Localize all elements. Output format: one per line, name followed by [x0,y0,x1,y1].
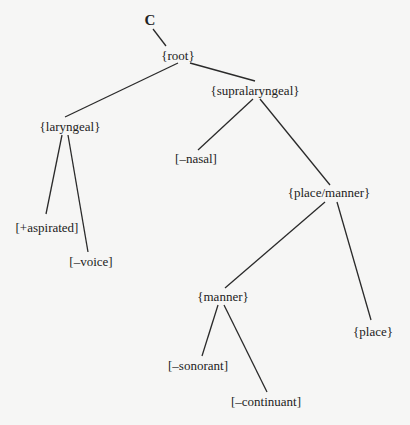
node-laryngeal: {laryngeal} [40,120,101,134]
edge-supralaryngeal-nasal [198,99,253,150]
node-manner: {manner} [197,290,248,304]
edge-manner-sonorant [202,305,218,356]
node-place-manner: {place/manner} [288,186,371,200]
node-root: {root} [161,49,194,63]
edge-c-root [153,29,166,46]
node-nasal: [–nasal] [175,152,217,166]
node-c: C [145,13,156,27]
node-continuant: [–continuant] [231,395,301,409]
node-aspirated: [+aspirated] [16,221,79,235]
edge-root-supralaryngeal [190,63,255,81]
edge-place_manner-place [337,202,371,320]
edge-place_manner-manner [225,202,325,288]
node-sonorant: [–sonorant] [168,359,228,373]
node-voice: [–voice] [69,255,112,269]
edge-root-laryngeal [65,63,178,117]
node-supralaryngeal: {supralaryngeal} [210,84,299,98]
edge-manner-continuant [224,305,267,392]
node-place: {place} [353,325,393,339]
edge-laryngeal-aspirated [46,135,62,214]
edge-supralaryngeal-place_manner [260,99,330,185]
